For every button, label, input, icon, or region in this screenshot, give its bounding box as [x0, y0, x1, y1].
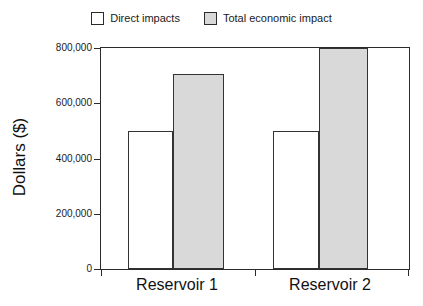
- legend-entry-total-economic-impact: Total economic impact: [204, 12, 332, 25]
- x-tick-mark-left-edge: [101, 269, 102, 276]
- plot-area: [100, 47, 410, 270]
- bar-reservoir-1-total-economic-impact: [173, 74, 224, 269]
- y-tick-mark-200000: [94, 214, 101, 215]
- y-tick-label-200000: 200,000: [0, 207, 92, 218]
- bar-reservoir-1-direct-impacts: [128, 131, 173, 269]
- y-tick-label-0: 0: [0, 263, 92, 274]
- bar-reservoir-2-direct-impacts: [273, 131, 319, 269]
- y-tick-mark-600000: [94, 103, 101, 104]
- x-tick-mark-right-edge: [408, 269, 409, 276]
- y-tick-mark-800000: [94, 48, 101, 49]
- bar-reservoir-2-total-economic-impact: [319, 48, 368, 269]
- bar-chart-figure: Direct impacts Total economic impact Dol…: [0, 0, 423, 306]
- y-tick-mark-0: [94, 269, 101, 270]
- y-tick-label-600000: 600,000: [0, 97, 92, 108]
- legend-label-total-economic-impact: Total economic impact: [223, 12, 332, 25]
- y-tick-label-800000: 800,000: [0, 42, 92, 53]
- chart-legend: Direct impacts Total economic impact: [0, 12, 423, 25]
- gray-square-swatch-icon: [204, 12, 217, 25]
- x-tick-label-reservoir-1: Reservoir 1: [136, 276, 218, 294]
- legend-entry-direct-impacts: Direct impacts: [91, 12, 180, 25]
- y-tick-label-400000: 400,000: [0, 152, 92, 163]
- legend-label-direct-impacts: Direct impacts: [110, 12, 180, 25]
- y-tick-mark-400000: [94, 159, 101, 160]
- white-square-swatch-icon: [91, 12, 104, 25]
- x-tick-label-reservoir-2: Reservoir 2: [289, 276, 371, 294]
- x-tick-mark-middle: [255, 269, 256, 276]
